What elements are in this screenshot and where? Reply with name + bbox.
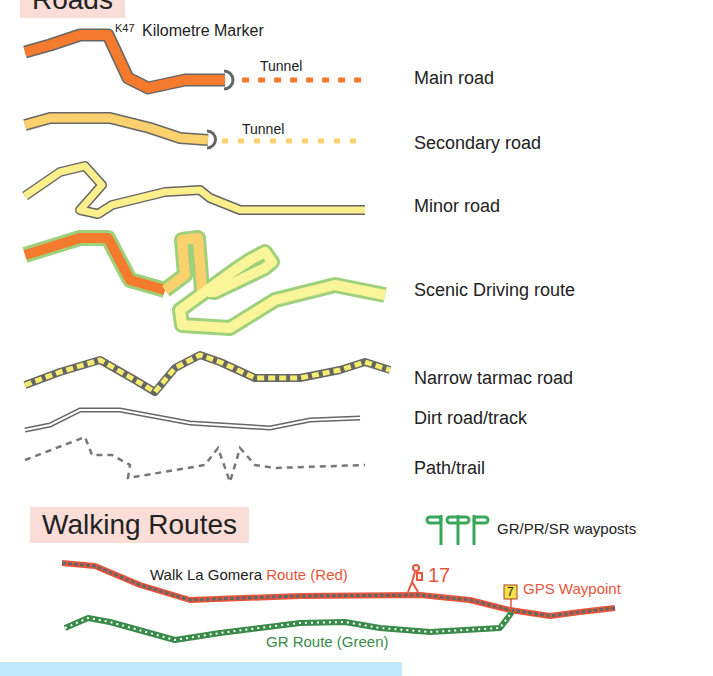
kilometre-marker-label: Kilometre Marker: [142, 22, 264, 40]
waypost-icons: [427, 515, 488, 545]
red-route-prefix: Walk La Gomera Route (Red): [150, 566, 348, 583]
legend-label-main-road: Main road: [414, 68, 494, 89]
green-route-label: GR Route (Green): [266, 633, 389, 650]
legend-label-narrow-tarmac: Narrow tarmac road: [414, 368, 573, 389]
scenic-route-symbol: [25, 238, 385, 328]
minor-road-symbol: [25, 166, 365, 214]
narrow-tarmac-symbol: [25, 355, 390, 392]
path-trail-symbol: [25, 437, 365, 482]
gps-number: 7: [507, 585, 514, 599]
red-route-prefix-text: Walk La Gomera: [150, 566, 266, 583]
section-title-walking: Walking Routes: [30, 507, 249, 543]
waypost-label: GR/PR/SR wayposts: [497, 520, 636, 537]
legend-label-scenic-route: Scenic Driving route: [414, 280, 575, 301]
red-route-label: Route (Red): [266, 566, 348, 583]
secondary-road-tunnel-label: Tunnel: [242, 121, 284, 137]
legend-graphics: [0, 0, 713, 676]
tunnel-icon: [224, 71, 233, 89]
next-section-band: [0, 662, 402, 676]
walk-number: 17: [428, 564, 450, 587]
dirt-road-symbol: [25, 410, 360, 430]
main-road-tunnel-label: Tunnel: [260, 58, 302, 74]
gps-waypoint-label: GPS Waypoint: [523, 580, 621, 597]
kilometre-marker-code: K47: [115, 22, 135, 34]
tunnel-icon: [207, 131, 216, 148]
section-title-roads: Roads: [20, 0, 125, 18]
main-road-symbol: [25, 35, 365, 89]
legend-label-secondary-road: Secondary road: [414, 133, 541, 154]
legend-label-minor-road: Minor road: [414, 196, 500, 217]
legend-label-dirt-road: Dirt road/track: [414, 408, 527, 429]
secondary-road-symbol: [25, 118, 365, 148]
walker-icon: [408, 565, 422, 592]
legend-label-path-trail: Path/trail: [414, 458, 485, 479]
